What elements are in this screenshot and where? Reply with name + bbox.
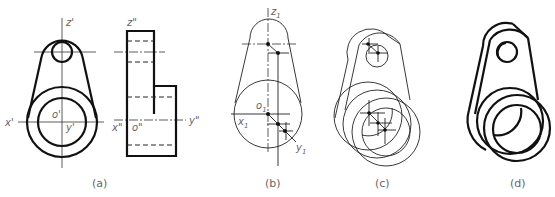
point-hole-offset <box>276 51 280 55</box>
panel-d-finished-drawing <box>468 23 550 161</box>
point-bore-b <box>376 121 380 125</box>
point-origin <box>266 112 270 116</box>
bore-back-arc <box>493 108 521 135</box>
label-y-double-prime: y" <box>188 115 200 126</box>
label-y-prime: y' <box>65 122 75 133</box>
label-y1: y1 <box>295 142 306 156</box>
cylinder-front-inner <box>493 105 541 153</box>
label-z1: z1 <box>270 6 281 20</box>
technical-drawing-figure: z' x' o' y' z" x" o" y" (a) <box>0 0 555 197</box>
panel-c-construction-drawing <box>334 29 420 166</box>
back-left-edge <box>469 46 483 110</box>
label-o1: o1 <box>256 100 267 114</box>
cylinder-mid-outer <box>477 88 543 154</box>
caption-b: (b) <box>265 177 281 190</box>
panel-a-front-view: z' x' o' y' <box>4 17 104 168</box>
label-o-double-prime: o" <box>132 122 143 133</box>
point-hole-b <box>376 51 380 55</box>
top-arc <box>250 19 288 38</box>
label-x1: x1 <box>237 116 248 130</box>
label-x-double-prime: x" <box>111 122 123 133</box>
point-hole-center <box>266 42 270 46</box>
front-top-arc <box>490 30 528 40</box>
point-offset-2 <box>283 129 287 133</box>
label-o-prime: o' <box>52 109 61 120</box>
panel-b-axes-construction: z1 o1 x1 y1 <box>231 6 306 166</box>
point-bore-c <box>383 128 387 132</box>
caption-d: (d) <box>510 177 526 190</box>
caption-c: (c) <box>375 177 390 190</box>
panel-a-side-view: z" x" o" y" <box>111 17 200 156</box>
right-tangent <box>400 44 410 100</box>
label-z-prime: z' <box>65 17 74 28</box>
caption-a: (a) <box>92 177 107 190</box>
right-edge <box>528 38 538 100</box>
side-view-outline <box>127 31 176 156</box>
front-top-arc <box>359 33 400 45</box>
point-hole-a <box>366 42 370 46</box>
label-x-prime: x' <box>4 117 14 128</box>
y1-axis <box>268 114 296 142</box>
point-offset-1 <box>276 122 280 126</box>
left-tangent <box>235 38 250 103</box>
label-z-double-prime: z" <box>126 17 137 28</box>
hole-offset-line <box>268 44 278 53</box>
point-bore-a <box>367 111 371 115</box>
